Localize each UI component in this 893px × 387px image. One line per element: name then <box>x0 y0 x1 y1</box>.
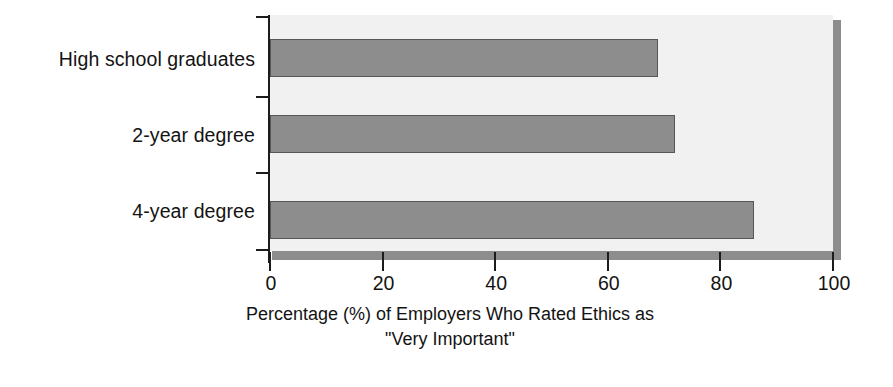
x-axis-tick <box>719 252 721 271</box>
plot-shadow-right <box>833 20 841 260</box>
x-axis-tick-label: 0 <box>241 272 301 295</box>
category-label-2-year-degree: 2-year degree <box>25 124 255 147</box>
x-axis-tick-label: 80 <box>691 272 751 295</box>
category-label-4-year-degree: 4-year degree <box>25 200 255 223</box>
bar-chart: High school graduates 2-year degree 4-ye… <box>0 0 893 387</box>
x-axis-tick <box>382 252 384 271</box>
x-axis-title: Percentage (%) of Employers Who Rated Et… <box>140 302 760 352</box>
x-axis-tick <box>607 252 609 271</box>
x-axis-title-line-2: "Very Important" <box>140 327 760 352</box>
x-axis-tick-label: 100 <box>804 272 864 295</box>
plot-shadow-bottom <box>272 251 840 260</box>
y-axis-tick <box>256 249 269 251</box>
x-axis-tick <box>269 252 271 271</box>
bar-high-school-graduates <box>270 39 658 77</box>
bar-4-year-degree <box>270 201 754 239</box>
y-axis-tick <box>256 16 269 18</box>
x-axis-tick-label: 20 <box>354 272 414 295</box>
x-axis-tick-label: 40 <box>466 272 526 295</box>
x-axis-tick-label: 60 <box>579 272 639 295</box>
y-axis-tick <box>256 96 269 98</box>
bar-2-year-degree <box>270 115 675 153</box>
category-label-high-school-graduates: High school graduates <box>25 48 255 71</box>
x-axis-tick <box>832 252 834 271</box>
x-axis-title-line-1: Percentage (%) of Employers Who Rated Et… <box>246 304 654 324</box>
y-axis-tick <box>256 172 269 174</box>
x-axis-tick <box>494 252 496 271</box>
